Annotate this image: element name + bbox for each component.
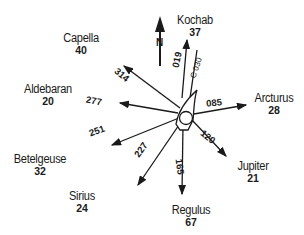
star-altitude: 32	[8, 166, 72, 177]
star-name: Kochab	[172, 14, 218, 26]
star-altitude: 21	[228, 173, 278, 184]
star-label-capella: Capella 40	[56, 32, 106, 56]
ship-icon	[176, 90, 197, 130]
bearing-regulus: 165	[174, 158, 186, 175]
star-altitude: 20	[16, 96, 80, 107]
star-name: Jupiter	[230, 160, 276, 172]
star-label-jupiter: Jupiter 21	[228, 160, 278, 184]
star-name: Sirius	[62, 190, 102, 202]
star-label-betelgeuse: Betelgeuse 32	[8, 153, 72, 177]
star-altitude: 37	[170, 27, 220, 38]
star-altitude: 24	[60, 203, 104, 214]
star-name: Capella	[58, 32, 104, 44]
bearing-line-aldebaran	[120, 103, 178, 113]
star-bearing-diagram	[0, 0, 304, 235]
star-name: Arcturus	[248, 92, 300, 104]
star-label-kochab: Kochab 37	[170, 14, 220, 38]
bearing-aldebaran: 277	[85, 95, 102, 107]
bearing-line-kochab	[182, 40, 187, 98]
star-name: Aldebaran	[19, 83, 78, 95]
bearing-line-capella	[124, 66, 180, 108]
star-label-regulus: Regulus 67	[166, 204, 216, 228]
star-label-aldebaran: Aldebaran 20	[16, 83, 80, 107]
bearing-arcturus: 085	[206, 97, 223, 108]
star-altitude: 28	[246, 105, 302, 116]
star-label-arcturus: Arcturus 28	[246, 92, 302, 116]
star-altitude: 67	[166, 217, 216, 228]
star-name: Betelgeuse	[11, 153, 70, 165]
bearing-line-betelgeuse	[112, 118, 179, 145]
north-label: N	[156, 38, 163, 48]
star-altitude: 40	[56, 45, 106, 56]
star-name: Regulus	[168, 204, 214, 216]
star-label-sirius: Sirius 24	[60, 190, 104, 214]
